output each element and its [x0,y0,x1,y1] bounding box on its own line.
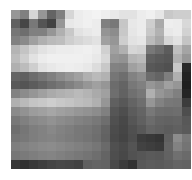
mosaic-cell [20,125,29,134]
mosaic-cell [56,45,65,54]
mosaic-cell [155,142,164,151]
mosaic-cell [182,63,191,72]
mosaic-cell [29,151,38,160]
mosaic-cell [47,72,56,81]
mosaic-cell [20,36,29,45]
mosaic-cell [164,19,173,28]
mosaic-cell [137,54,146,63]
mosaic-cell [146,63,155,72]
mosaic-cell [56,107,65,116]
mosaic-cell [11,98,20,107]
mosaic-cell [101,134,110,143]
mosaic-cell [92,89,101,98]
mosaic-cell [119,10,128,19]
mosaic-cell [101,28,110,37]
mosaic-cell [119,98,128,107]
mosaic-cell [83,134,92,143]
mosaic-cell [92,28,101,37]
mosaic-cell [47,81,56,90]
mosaic-cell [83,45,92,54]
mosaic-cell [56,160,65,169]
mosaic-cell [173,28,182,37]
mosaic-cell [155,134,164,143]
mosaic-cell [173,19,182,28]
mosaic-cell [92,54,101,63]
mosaic-cell [110,89,119,98]
mosaic-cell [101,19,110,28]
mosaic-cell [56,72,65,81]
mosaic-cell [155,28,164,37]
mosaic-cell [56,63,65,72]
mosaic-cell [11,45,20,54]
mosaic-cell [182,125,191,134]
mosaic-cell [119,72,128,81]
mosaic-cell [146,125,155,134]
mosaic-cell [173,36,182,45]
mosaic-cell [110,19,119,28]
mosaic-cell [83,125,92,134]
mosaic-cell [47,134,56,143]
mosaic-cell [11,54,20,63]
mosaic-cell [137,19,146,28]
mosaic-cell [65,142,74,151]
mosaic-cell [173,142,182,151]
mosaic-cell [110,160,119,169]
mosaic-cell [74,28,83,37]
mosaic-cell [74,107,83,116]
mosaic-cell [173,63,182,72]
mosaic-cell [29,36,38,45]
mosaic-cell [146,19,155,28]
mosaic-cell [155,45,164,54]
mosaic-cell [155,107,164,116]
mosaic-cell [110,63,119,72]
mosaic-cell [38,72,47,81]
mosaic-cell [110,151,119,160]
mosaic-cell [47,28,56,37]
mosaic-cell [182,116,191,125]
mosaic-cell [56,98,65,107]
mosaic-cell [173,125,182,134]
mosaic-cell [173,54,182,63]
mosaic-cell [20,45,29,54]
mosaic-cell [92,36,101,45]
mosaic-cell [164,116,173,125]
mosaic-cell [101,54,110,63]
mosaic-cell [128,151,137,160]
mosaic-cell [155,151,164,160]
mosaic-cell [110,81,119,90]
mosaic-cell [164,98,173,107]
mosaic-cell [65,36,74,45]
mosaic-cell [173,116,182,125]
mosaic-cell [155,10,164,19]
mosaic-cell [83,98,92,107]
mosaic-cell [101,45,110,54]
mosaic-cell [47,10,56,19]
mosaic-cell [110,36,119,45]
mosaic-cell [38,151,47,160]
mosaic-cell [11,28,20,37]
mosaic-cell [92,63,101,72]
mosaic-cell [101,36,110,45]
mosaic-cell [92,72,101,81]
mosaic-cell [74,98,83,107]
mosaic-cell [101,72,110,81]
mosaic-cell [56,89,65,98]
mosaic-cell [47,19,56,28]
mosaic-cell [182,134,191,143]
mosaic-cell [11,81,20,90]
mosaic-cell [155,81,164,90]
mosaic-cell [182,36,191,45]
mosaic-cell [92,98,101,107]
mosaic-cell [83,107,92,116]
mosaic-cell [47,142,56,151]
mosaic-cell [11,151,20,160]
mosaic-cell [20,89,29,98]
mosaic-cell [146,160,155,169]
mosaic-cell [182,54,191,63]
mosaic-cell [29,89,38,98]
mosaic-cell [20,63,29,72]
mosaic-cell [119,45,128,54]
mosaic-cell [74,151,83,160]
mosaic-cell [101,63,110,72]
mosaic-cell [137,107,146,116]
